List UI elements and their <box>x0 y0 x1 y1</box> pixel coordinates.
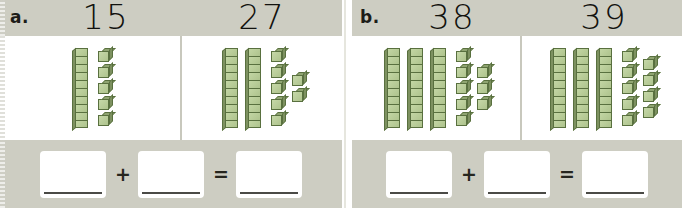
group-b-sum-box[interactable] <box>582 151 648 198</box>
group-b-addend1-box[interactable] <box>386 151 452 198</box>
ten-rod-segment <box>410 88 423 96</box>
ten-rod-segment <box>599 72 612 80</box>
group-b-answer-band: + = <box>352 140 682 208</box>
ten-rod-segment <box>553 72 566 80</box>
group-b-addend2-box[interactable] <box>484 151 550 198</box>
ten-rod-segment <box>553 48 566 56</box>
unit-cube <box>98 115 109 126</box>
ten-rod-segment <box>387 80 400 88</box>
unit-cube <box>456 51 467 62</box>
ten-rod <box>245 48 261 128</box>
ten-rod-segment <box>599 96 612 104</box>
ten-rod-segment <box>248 112 261 120</box>
group-a-blocks-cell-right <box>182 36 342 140</box>
group-a-numeral-right: 27 <box>182 0 342 36</box>
group-b-cell-divider <box>520 36 522 140</box>
group-b-manipulatives-left <box>352 36 520 140</box>
group-a-answer-band: + = <box>0 140 342 208</box>
ten-rod-segment <box>225 48 238 56</box>
ones-column <box>95 51 109 126</box>
ten-rod-segment <box>576 56 589 64</box>
ten-rod-body <box>553 48 566 128</box>
unit-cube <box>98 99 109 110</box>
ten-rod-segment <box>599 120 612 128</box>
ten-rod-segment <box>433 112 446 120</box>
ten-rod-segment <box>225 88 238 96</box>
unit-cube <box>292 75 303 86</box>
ten-rod-segment <box>553 112 566 120</box>
ten-rod-segment <box>599 80 612 88</box>
ten-rod-body <box>225 48 238 128</box>
ten-rod-segment <box>410 72 423 80</box>
group-a-addend1-box[interactable] <box>40 151 106 198</box>
unit-cube <box>98 67 109 78</box>
ones-column <box>453 51 467 126</box>
ten-rod-segment <box>387 112 400 120</box>
group-a-addend1-line <box>44 192 102 194</box>
group-a-manipulatives-right <box>182 36 342 140</box>
ten-rod-segment <box>225 112 238 120</box>
unit-cube <box>477 99 488 110</box>
ten-rod-segment <box>576 120 589 128</box>
unit-cube <box>456 83 467 94</box>
ten-rod-segment <box>75 120 88 128</box>
ten-rod-segment <box>433 56 446 64</box>
ten-rod-segment <box>248 96 261 104</box>
paper-perforation-edge <box>0 0 5 208</box>
problem-group-b: b. 38 39 + = <box>352 0 682 208</box>
ten-rod-segment <box>576 96 589 104</box>
ten-rod-segment <box>248 104 261 112</box>
ten-rod-segment <box>599 104 612 112</box>
unit-cube <box>271 115 282 126</box>
group-a-sum-line <box>240 192 298 194</box>
unit-cube <box>271 99 282 110</box>
group-a-cell-divider <box>180 36 182 140</box>
ten-rod-segment <box>248 56 261 64</box>
ten-rod-segment <box>576 104 589 112</box>
group-b-manipulatives-right <box>522 36 682 140</box>
ten-rod-body <box>387 48 400 128</box>
ten-rod-body <box>433 48 446 128</box>
ten-rod <box>596 48 612 128</box>
ten-rod-segment <box>553 80 566 88</box>
ten-rod-segment <box>433 72 446 80</box>
ten-rod-segment <box>599 112 612 120</box>
ten-rod-segment <box>248 80 261 88</box>
unit-cube <box>271 51 282 62</box>
ten-rod-segment <box>576 48 589 56</box>
ten-rod-segment <box>387 56 400 64</box>
ten-rod-segment <box>553 56 566 64</box>
ten-rod-segment <box>433 104 446 112</box>
group-separator-gutter <box>342 0 352 208</box>
ten-rod-segment <box>433 88 446 96</box>
ten-rod-segment <box>75 56 88 64</box>
ten-rod <box>384 48 400 128</box>
group-b-blocks-band <box>352 36 682 140</box>
unit-cube <box>622 67 633 78</box>
ten-rod-segment <box>553 104 566 112</box>
ones-column <box>289 75 303 102</box>
ten-rod-body <box>576 48 589 128</box>
ten-rod-segment <box>576 88 589 96</box>
group-b-numeral-right: 39 <box>524 0 682 36</box>
unit-cube <box>292 91 303 102</box>
ten-rod <box>430 48 446 128</box>
group-a-sum-box[interactable] <box>236 151 302 198</box>
group-a-header-band: a. 15 27 <box>0 0 342 36</box>
ten-rod-segment <box>599 64 612 72</box>
ten-rod <box>72 48 88 128</box>
unit-cube <box>622 51 633 62</box>
ten-rod-body <box>248 48 261 128</box>
ten-rod-segment <box>599 48 612 56</box>
ten-rod-segment <box>248 72 261 80</box>
group-b-addend1-line <box>390 192 448 194</box>
group-a-addend2-box[interactable] <box>138 151 204 198</box>
ten-rod-body <box>75 48 88 128</box>
ten-rod-segment <box>410 120 423 128</box>
unit-cube <box>477 83 488 94</box>
ten-rod-segment <box>387 64 400 72</box>
group-a-blocks-band <box>0 36 342 140</box>
ten-rod-segment <box>599 56 612 64</box>
ten-rod-segment <box>225 120 238 128</box>
ten-rod-segment <box>576 112 589 120</box>
